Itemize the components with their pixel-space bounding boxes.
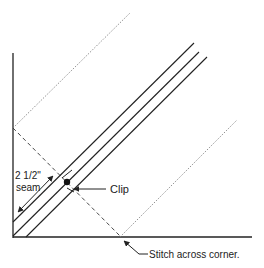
seam-line-2 <box>13 52 199 236</box>
dotted-line-upper <box>13 13 130 128</box>
seam-label-line1: 2 1/2" <box>15 170 41 181</box>
dotted-line-lower <box>120 120 237 237</box>
stitch-label: Stitch across corner. <box>149 249 240 260</box>
seam-inner-upper <box>62 170 72 178</box>
seam-line-1 <box>13 43 194 222</box>
seam-label-line2: seam <box>16 182 40 193</box>
clip-label: Clip <box>110 183 129 195</box>
corner-seam-diagram: 2 1/2" seam Clip Stitch across corner. <box>0 0 264 268</box>
clip-point <box>64 179 70 185</box>
stitch-arrow <box>124 241 148 254</box>
seam-line-3 <box>26 57 207 237</box>
